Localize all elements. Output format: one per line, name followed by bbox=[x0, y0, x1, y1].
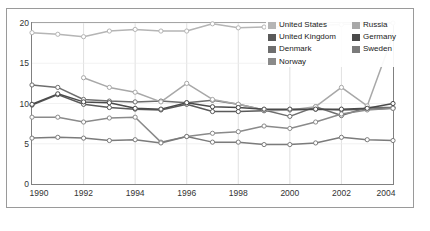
legend-swatch-icon bbox=[352, 46, 360, 53]
data-point bbox=[314, 120, 318, 124]
data-point bbox=[107, 138, 111, 142]
data-point bbox=[107, 105, 111, 109]
data-point bbox=[288, 142, 292, 146]
legend-item-united-kingdom[interactable]: United Kingdom bbox=[268, 31, 352, 43]
data-point bbox=[56, 115, 60, 119]
legend-swatch-icon bbox=[352, 22, 360, 29]
data-point bbox=[236, 26, 240, 30]
data-point bbox=[107, 85, 111, 89]
legend-item-russia[interactable]: Russia bbox=[352, 19, 400, 31]
data-point bbox=[210, 131, 214, 135]
x-tick-label: 2004 bbox=[377, 188, 396, 198]
legend-label: United States bbox=[279, 21, 327, 29]
y-tick-label: 15 bbox=[7, 59, 29, 67]
legend-swatch-icon bbox=[268, 58, 276, 65]
data-point bbox=[185, 29, 189, 33]
data-point bbox=[262, 124, 266, 128]
data-point bbox=[159, 29, 163, 33]
data-point bbox=[210, 22, 214, 26]
legend-item-sweden[interactable]: Sweden bbox=[352, 43, 400, 55]
data-point bbox=[314, 141, 318, 145]
data-point bbox=[81, 76, 85, 80]
legend-swatch-icon bbox=[268, 46, 276, 53]
data-point bbox=[133, 138, 137, 142]
data-point bbox=[30, 102, 34, 106]
legend-swatch-icon bbox=[268, 22, 276, 29]
data-point bbox=[365, 106, 369, 110]
legend-label: United Kingdom bbox=[279, 33, 336, 41]
data-point bbox=[159, 107, 163, 111]
data-point bbox=[185, 81, 189, 85]
data-point bbox=[339, 112, 343, 116]
data-point bbox=[107, 116, 111, 120]
data-point bbox=[81, 120, 85, 124]
data-point bbox=[133, 27, 137, 31]
legend-item-united-states[interactable]: United States bbox=[268, 19, 352, 31]
data-point bbox=[81, 136, 85, 140]
figure: 05101520 1990199219941996199820002002200… bbox=[0, 0, 430, 231]
y-tick-label: 20 bbox=[7, 19, 29, 27]
data-point bbox=[81, 100, 85, 104]
legend-label: Germany bbox=[363, 33, 396, 41]
data-point bbox=[262, 142, 266, 146]
legend-label: Russia bbox=[363, 21, 387, 29]
data-point bbox=[107, 29, 111, 33]
legend-label: Denmark bbox=[279, 45, 311, 53]
x-tick-label: 1998 bbox=[229, 188, 248, 198]
legend-label: Sweden bbox=[363, 45, 392, 53]
data-point bbox=[391, 138, 395, 142]
data-point bbox=[210, 105, 214, 109]
data-point bbox=[56, 92, 60, 96]
legend-swatch-icon bbox=[268, 34, 276, 41]
data-point bbox=[107, 101, 111, 105]
y-tick-label: 10 bbox=[7, 100, 29, 108]
data-point bbox=[185, 101, 189, 105]
data-point bbox=[236, 105, 240, 109]
data-point bbox=[30, 31, 34, 35]
data-point bbox=[133, 100, 137, 104]
x-tick-label: 1992 bbox=[74, 188, 93, 198]
x-tick-label: 1990 bbox=[30, 188, 49, 198]
data-point bbox=[133, 115, 137, 119]
data-point bbox=[339, 107, 343, 111]
data-point bbox=[210, 109, 214, 113]
data-point bbox=[262, 107, 266, 111]
chart-legend: United StatesRussiaUnited KingdomGermany… bbox=[266, 17, 398, 67]
data-point bbox=[365, 138, 369, 142]
data-point bbox=[391, 101, 395, 105]
legend-swatch-icon bbox=[352, 34, 360, 41]
data-point bbox=[236, 140, 240, 144]
data-point bbox=[56, 85, 60, 89]
data-point bbox=[30, 136, 34, 140]
x-tick-label: 2000 bbox=[280, 188, 299, 198]
data-point bbox=[314, 107, 318, 111]
data-point bbox=[81, 35, 85, 39]
data-point bbox=[185, 134, 189, 138]
data-point bbox=[210, 97, 214, 101]
x-tick-label: 1994 bbox=[126, 188, 145, 198]
data-point bbox=[56, 135, 60, 139]
data-point bbox=[30, 83, 34, 87]
data-point bbox=[288, 107, 292, 111]
legend-item-denmark[interactable]: Denmark bbox=[268, 43, 352, 55]
y-tick-label: 5 bbox=[7, 140, 29, 148]
data-point bbox=[133, 106, 137, 110]
x-tick-label: 1996 bbox=[177, 188, 196, 198]
data-point bbox=[30, 115, 34, 119]
data-point bbox=[159, 100, 163, 104]
legend-label: Norway bbox=[279, 58, 306, 66]
y-tick-label: 0 bbox=[7, 180, 29, 188]
data-point bbox=[288, 114, 292, 118]
data-point bbox=[288, 126, 292, 130]
data-point bbox=[133, 90, 137, 94]
data-point bbox=[391, 106, 395, 110]
x-tick-label: 2002 bbox=[332, 188, 351, 198]
data-point bbox=[210, 140, 214, 144]
data-point bbox=[236, 130, 240, 134]
data-point bbox=[56, 32, 60, 36]
data-point bbox=[159, 141, 163, 145]
legend-item-germany[interactable]: Germany bbox=[352, 31, 400, 43]
data-point bbox=[339, 135, 343, 139]
data-point bbox=[339, 85, 343, 89]
legend-item-norway[interactable]: Norway bbox=[268, 56, 352, 68]
